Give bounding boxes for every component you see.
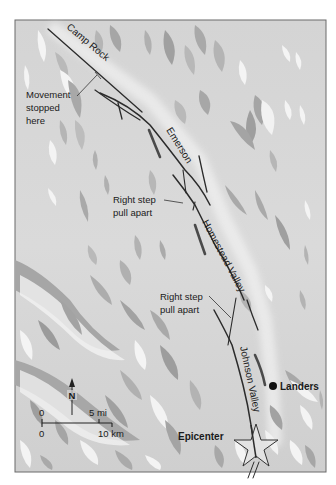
north-label: N [69, 390, 76, 401]
right-step-2-line-2: pull apart [160, 304, 199, 315]
scale-mi-zero: 0 [39, 407, 44, 418]
landers-label: Landers [280, 381, 319, 392]
right-step-1-line-2: pull apart [113, 207, 152, 218]
movement-line-3: here [26, 115, 45, 126]
landers-dot-icon [269, 382, 277, 390]
scale-mi-label: 5 mi [89, 407, 107, 418]
scale-km-label: 10 km [98, 428, 124, 439]
fault-map: Camp Rock Emerson Homestead Valley Johns… [0, 0, 336, 485]
movement-line-1: Movement [26, 89, 71, 100]
epicenter-label: Epicenter [178, 431, 224, 442]
right-step-1-line-1: Right step [113, 194, 156, 205]
right-step-2-line-1: Right step [160, 291, 203, 302]
scale-km-zero: 0 [39, 428, 44, 439]
movement-line-2: stopped [26, 102, 60, 113]
